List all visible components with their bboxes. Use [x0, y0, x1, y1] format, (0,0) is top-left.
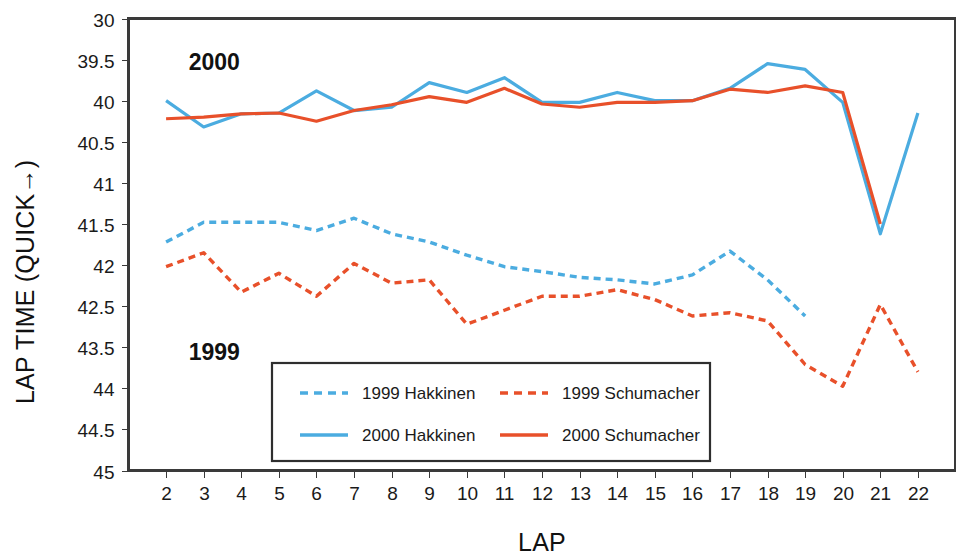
x-axis-tick-label: 9	[424, 483, 435, 504]
lap-time-line-chart: 3039.54040.54141.54242.543.54444.545 234…	[0, 0, 956, 558]
x-axis-tick-label: 7	[349, 483, 360, 504]
x-axis-tick-label: 20	[833, 483, 854, 504]
y-axis-tick-label: 39.5	[78, 51, 115, 72]
x-axis-tick-labels: 2345678910111213141516171819202122	[161, 483, 929, 504]
annotation-1999: 1999	[189, 339, 240, 365]
legend: 1999 Hakkinen1999 Schumacher2000 Hakkine…	[272, 363, 710, 461]
x-axis-tick-label: 10	[457, 483, 478, 504]
y-axis-tick-label: 43.5	[78, 338, 115, 359]
x-axis-tick-label: 17	[720, 483, 741, 504]
annotation-2000: 2000	[189, 49, 240, 75]
x-axis-tick-label: 16	[682, 483, 703, 504]
y-axis-tick-label: 42.5	[78, 297, 115, 318]
x-axis-tick-label: 22	[908, 483, 929, 504]
x-axis-tick-label: 2	[161, 483, 172, 504]
x-axis-tick-label: 19	[795, 483, 816, 504]
chart-figure: 3039.54040.54141.54242.543.54444.545 234…	[0, 0, 956, 558]
legend-label-2000-hakkinen: 2000 Hakkinen	[362, 426, 475, 445]
x-axis-tick-label: 18	[758, 483, 779, 504]
y-axis-tick-label: 41.5	[78, 215, 115, 236]
x-axis-tick-label: 21	[870, 483, 891, 504]
x-axis-tick-label: 11	[495, 483, 515, 504]
legend-label-2000-schumacher: 2000 Schumacher	[562, 426, 700, 445]
y-axis-tick-label: 45	[93, 462, 114, 483]
y-axis-tick-label: 41	[93, 174, 114, 195]
x-axis-title: LAP	[518, 528, 566, 556]
y-axis-tick-label: 40.5	[78, 133, 115, 154]
x-axis-tick-label: 15	[645, 483, 666, 504]
x-axis-tick-label: 3	[199, 483, 210, 504]
x-axis-tick-label: 14	[607, 483, 629, 504]
legend-label-1999-hakkinen: 1999 Hakkinen	[362, 384, 475, 403]
x-axis-tick-label: 13	[570, 483, 591, 504]
x-axis-tick-label: 6	[311, 483, 322, 504]
x-axis-tick-label: 4	[236, 483, 247, 504]
x-axis-tick-label: 5	[274, 483, 285, 504]
x-axis-tick-label: 8	[387, 483, 398, 504]
y-axis-tick-label: 44	[93, 379, 115, 400]
y-axis-tick-label: 30	[93, 10, 114, 31]
legend-box	[272, 363, 710, 461]
y-axis-title: LAP TIME (QUICK→)	[11, 160, 39, 404]
y-axis-tick-label: 40	[93, 92, 114, 113]
legend-label-1999-schumacher: 1999 Schumacher	[562, 384, 700, 403]
x-axis-tick-label: 12	[532, 483, 553, 504]
y-axis-tick-label: 42	[93, 256, 114, 277]
y-axis-tick-label: 44.5	[78, 420, 115, 441]
